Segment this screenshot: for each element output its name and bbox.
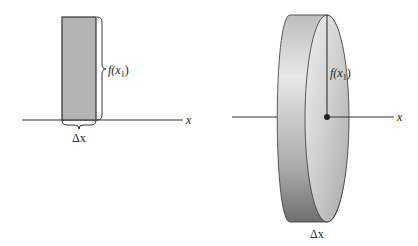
right-figure: f(x1) Δx x: [232, 15, 403, 241]
figure-canvas: f(x1) Δx x f(x1) Δx x: [0, 0, 418, 246]
thickness-label: Δx: [310, 227, 324, 241]
center-point: [324, 114, 330, 120]
width-label: Δx: [72, 131, 86, 145]
height-brace: [97, 17, 106, 120]
axis-label-x: x: [185, 113, 192, 127]
radius-label: f(x1): [330, 66, 351, 82]
left-figure: f(x1) Δx x: [22, 17, 192, 145]
axis-label-x-right: x: [396, 110, 403, 124]
rectangle-strip: [62, 17, 96, 120]
height-label: f(x1): [108, 63, 129, 79]
width-brace: [62, 120, 96, 129]
